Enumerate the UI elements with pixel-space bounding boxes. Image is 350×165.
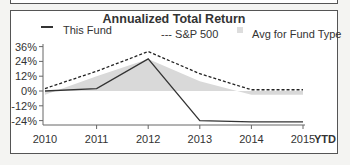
y-tick-label: 0% [21,85,37,97]
ytd-label: YTD [314,133,336,145]
x-tick-label: 2015 [291,133,315,145]
y-tick-label: -24% [11,115,37,127]
y-tick-label: 12% [15,70,37,82]
x-tick-label: 2013 [188,133,212,145]
chart-plot: 36%24%12%0%-12%-24%201020112012201320142… [0,0,350,165]
y-tick-label: -12% [11,100,37,112]
y-tick-label: 36% [15,41,37,53]
y-tick-label: 24% [15,55,37,67]
x-tick-label: 2014 [239,133,263,145]
x-tick-label: 2011 [85,133,109,145]
x-tick-label: 2012 [136,133,160,145]
x-tick-label: 2010 [33,133,57,145]
